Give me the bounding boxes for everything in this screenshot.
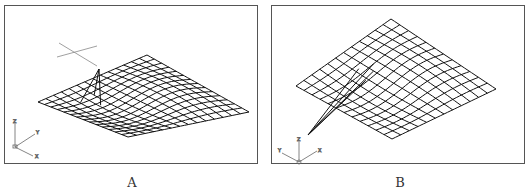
svg-text:Z: Z: [13, 118, 17, 124]
caption-b: B: [380, 175, 420, 190]
panel-b: Z Y X: [271, 5, 525, 164]
ucs-axis-icon: Z Y X: [277, 136, 322, 164]
mesh-surface-b: Z Y X: [272, 6, 526, 165]
caption-a: A: [112, 175, 152, 190]
panel-a: Z Y X: [4, 5, 258, 164]
svg-text:X: X: [318, 147, 322, 153]
svg-text:Y: Y: [35, 129, 40, 135]
svg-text:Y: Y: [277, 147, 282, 153]
mesh-surface-a: Z Y X: [5, 6, 259, 165]
cursor-crosshair-icon: [57, 43, 97, 66]
ucs-axis-icon: Z Y X: [13, 118, 40, 159]
svg-text:X: X: [35, 153, 39, 159]
svg-text:Z: Z: [297, 136, 301, 142]
